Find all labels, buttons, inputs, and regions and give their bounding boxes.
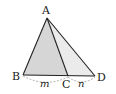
- label-m: m: [40, 78, 49, 89]
- triangle-diagram: A B C D m n: [0, 0, 116, 94]
- label-b: B: [12, 70, 20, 83]
- label-n: n: [78, 78, 84, 89]
- label-c: C: [62, 78, 70, 91]
- label-a: A: [41, 4, 51, 17]
- label-d: D: [97, 71, 106, 84]
